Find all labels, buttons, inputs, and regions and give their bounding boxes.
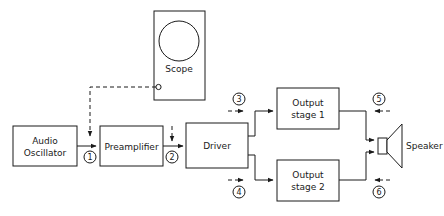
block-diagram-canvas: Scope Audio Oscillator 1 Preamplifier [0, 0, 444, 216]
block-audio-oscillator[interactable]: Audio Oscillator [13, 126, 77, 166]
wire-driver-to-stage2 [248, 155, 273, 180]
audio-oscillator-body [13, 126, 77, 166]
wire-driver-split [248, 111, 273, 180]
output-stage-2-body [277, 160, 339, 201]
output-stage-2-label-line2: stage 2 [291, 182, 325, 192]
output-stage-1-label-line2: stage 1 [291, 110, 325, 120]
tp6-number: 6 [376, 188, 381, 197]
wire-preamp-to-driver [163, 126, 183, 146]
block-preamplifier[interactable]: Preamplifier [100, 126, 163, 166]
audio-oscillator-label-line2: Oscillator [24, 148, 67, 158]
tp3-number: 3 [236, 95, 241, 104]
test-point-3[interactable]: 3 [228, 93, 245, 111]
test-point-4[interactable]: 4 [228, 180, 245, 198]
block-output-stage-2[interactable]: Output stage 2 [277, 160, 339, 201]
speaker-cone-icon [387, 124, 402, 168]
probe-lead-path [90, 87, 156, 131]
tp4-number: 4 [236, 188, 241, 197]
preamplifier-label: Preamplifier [104, 142, 159, 152]
scope-input-terminal-icon[interactable] [156, 84, 161, 89]
wire-stage2-to-speaker [339, 152, 374, 180]
scope-label: Scope [165, 64, 193, 74]
speaker-label: Speaker [406, 141, 443, 151]
speaker-symbol-icon[interactable]: Speaker [378, 124, 443, 168]
speaker-magnet-icon [378, 138, 387, 154]
test-point-2[interactable]: 2 [166, 151, 178, 163]
output-stage-1-label-line1: Output [292, 98, 324, 108]
driver-label: Driver [203, 141, 231, 151]
wire-stages-to-speaker [339, 111, 374, 180]
scope-screen-icon [159, 21, 199, 61]
output-stage-1-body [277, 88, 339, 129]
wire-stage1-to-speaker [339, 111, 374, 140]
block-scope[interactable]: Scope [154, 11, 205, 100]
test-point-5[interactable]: 5 [373, 93, 390, 111]
test-point-6[interactable]: 6 [373, 180, 390, 198]
output-stage-2-label-line1: Output [292, 170, 324, 180]
tp2-number: 2 [169, 153, 174, 162]
tp1-number: 1 [87, 153, 92, 162]
block-driver[interactable]: Driver [186, 123, 248, 168]
wire-driver-to-stage1 [248, 111, 273, 136]
test-point-1[interactable]: 1 [84, 151, 96, 163]
block-output-stage-1[interactable]: Output stage 1 [277, 88, 339, 129]
tp5-number: 5 [376, 95, 381, 104]
audio-oscillator-label-line1: Audio [32, 136, 58, 146]
schematic-svg: Scope Audio Oscillator 1 Preamplifier [0, 0, 444, 216]
